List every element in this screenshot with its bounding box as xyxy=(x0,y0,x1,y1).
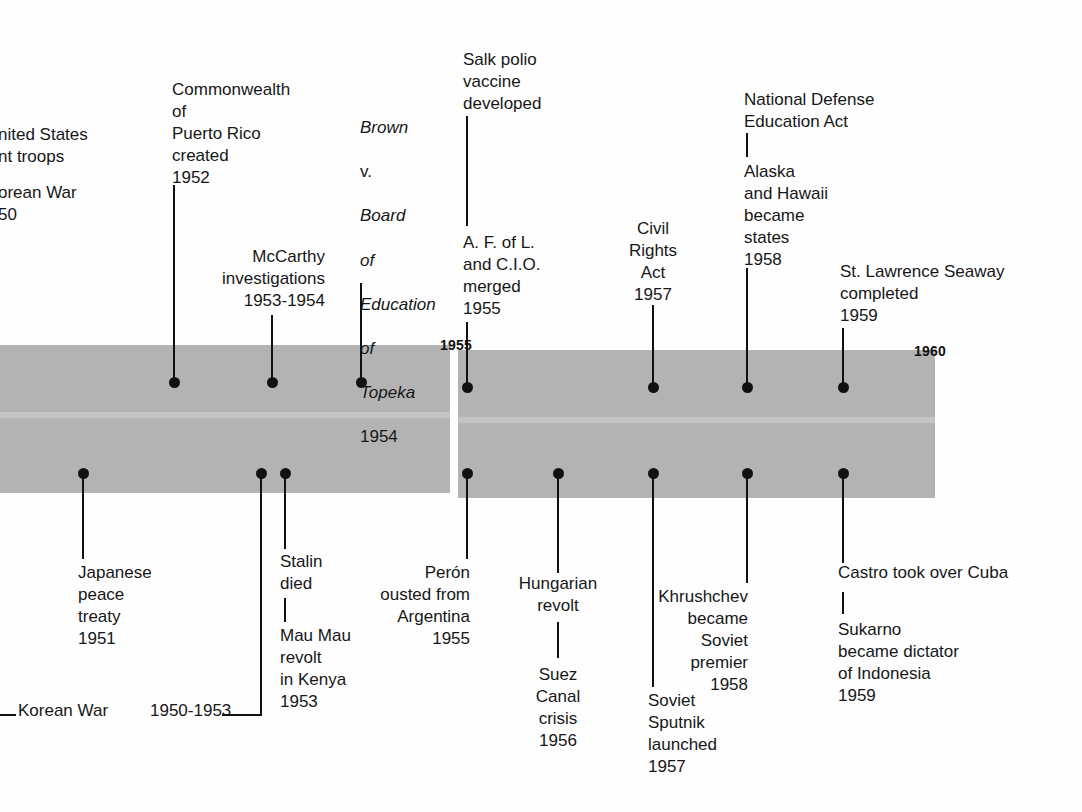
leader-suez xyxy=(557,622,559,658)
leader-khrushchev xyxy=(746,473,748,583)
brown-line-2: v. xyxy=(360,161,480,183)
dot-brown-v-board xyxy=(356,377,367,388)
leader-sukarno xyxy=(842,592,844,614)
leader-hungarian-revolt xyxy=(557,473,559,573)
caption-st-lawrence-seaway: St. Lawrence Seaway completed 1959 xyxy=(840,261,1070,327)
dot-puerto-rico xyxy=(169,377,180,388)
year-tick-1960: 1960 xyxy=(914,343,946,359)
leader-st-lawrence-seaway xyxy=(842,328,844,388)
timeline-band-right xyxy=(458,350,935,498)
caption-puerto-rico: Commonwealth of Puerto Rico created 1952 xyxy=(172,79,362,189)
leader-peron xyxy=(466,473,468,559)
leader-civil-rights-act xyxy=(652,305,654,388)
caption-sputnik: Soviet Sputnik launched 1957 xyxy=(648,690,788,778)
leader-stalin-died xyxy=(284,473,286,549)
caption-peron: Perón ousted from Argentina 1955 xyxy=(330,562,470,650)
brown-line-3: Board xyxy=(360,205,480,227)
brown-line-8: 1954 xyxy=(360,426,480,448)
brown-line-5: Education xyxy=(360,294,480,316)
dot-afl-cio xyxy=(462,382,473,393)
caption-hungarian-revolt: Hungarian revolt xyxy=(493,573,623,617)
caption-suez: Suez Canal crisis 1956 xyxy=(508,664,608,752)
caption-mccarthy: McCarthy investigations 1953-1954 xyxy=(155,246,325,312)
brown-line-6: of xyxy=(360,338,480,360)
leader-brown-v-board xyxy=(360,283,362,383)
caption-afl-cio: A. F. of L. and C.I.O. merged 1955 xyxy=(463,232,613,320)
caption-japanese-treaty: Japanese peace treaty 1951 xyxy=(78,562,228,650)
caption-ndea: National Defense Education Act xyxy=(744,89,974,133)
dot-korean-war xyxy=(256,468,267,479)
leader-salk-polio xyxy=(466,116,468,226)
leader-mau-mau xyxy=(284,598,286,622)
leader-korean-war-vertical xyxy=(260,473,262,716)
caption-brown-v-board: Brown v. Board of Education of Topeka 19… xyxy=(360,95,480,471)
caption-korean-war-top: orean War 50 xyxy=(0,182,168,226)
leader-japanese-treaty xyxy=(82,473,84,559)
dot-st-lawrence-seaway xyxy=(838,382,849,393)
caption-us-sent-troops: nited States nt troops xyxy=(0,124,168,168)
leader-mccarthy xyxy=(271,315,273,383)
caption-korean-war-label: Korean War xyxy=(18,700,158,722)
dot-alaska-hawaii xyxy=(742,382,753,393)
leader-ndea xyxy=(746,133,748,157)
caption-alaska-hawaii: Alaska and Hawaii became states 1958 xyxy=(744,161,904,271)
caption-castro: Castro took over Cuba xyxy=(838,562,1078,584)
leader-korean-war-horizontal xyxy=(222,714,262,716)
caption-korean-war-dates: 1950-1953 xyxy=(150,700,260,722)
leader-castro xyxy=(842,473,844,563)
caption-civil-rights-act: Civil Rights Act 1957 xyxy=(603,218,703,306)
timeline-figure: 1955 1960 nited States nt troops orean W… xyxy=(0,0,1082,812)
caption-salk-polio: Salk polio vaccine developed xyxy=(463,49,613,115)
leader-afl-cio xyxy=(466,322,468,388)
caption-sukarno: Sukarno became dictator of Indonesia 195… xyxy=(838,619,1068,707)
caption-khrushchev: Khrushchev became Soviet premier 1958 xyxy=(628,586,748,696)
dot-civil-rights-act xyxy=(648,382,659,393)
band-highlight-right xyxy=(458,417,935,423)
brown-line-4: of xyxy=(360,250,480,272)
brown-line-1: Brown xyxy=(360,117,480,139)
leader-korean-war-left-tick xyxy=(0,714,16,716)
leader-alaska-hawaii xyxy=(746,268,748,388)
dot-mccarthy xyxy=(267,377,278,388)
